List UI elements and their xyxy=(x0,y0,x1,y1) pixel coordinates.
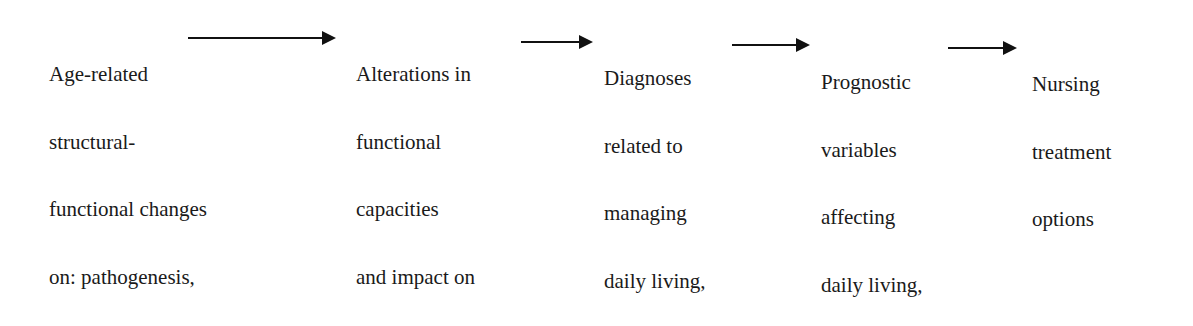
node-line: on: pathogenesis, xyxy=(49,266,232,289)
node-line: Alterations in xyxy=(356,63,475,86)
node-prognostic: Prognostic variables affecting daily liv… xyxy=(821,26,924,326)
node-line: variables xyxy=(821,139,924,162)
arrow-2-to-3 xyxy=(521,41,591,43)
node-diagnoses: Diagnoses related to managing daily livi… xyxy=(604,22,706,326)
arrow-4-to-5 xyxy=(948,47,1015,49)
node-line: Prognostic xyxy=(821,71,924,94)
node-line: affecting xyxy=(821,206,924,229)
node-alterations: Alterations in functional capacities and… xyxy=(356,18,475,326)
node-line: managing xyxy=(604,202,706,225)
node-line: structural- xyxy=(49,131,232,154)
node-age-related-changes: Age-related structural- functional chang… xyxy=(49,18,232,326)
arrow-3-to-4 xyxy=(732,44,808,46)
node-line: functional xyxy=(356,131,475,154)
node-line: treatment xyxy=(1032,141,1111,164)
node-line: functional changes xyxy=(49,198,232,221)
node-line: Age-related xyxy=(49,63,232,86)
node-line: daily living, xyxy=(604,270,706,293)
node-line: and impact on xyxy=(356,266,475,289)
node-line: options xyxy=(1032,208,1111,231)
node-line: Diagnoses xyxy=(604,67,706,90)
node-line: Nursing xyxy=(1032,73,1111,96)
node-line: daily living, xyxy=(821,274,924,297)
node-line: capacities xyxy=(356,198,475,221)
arrow-1-to-2 xyxy=(188,37,334,39)
node-nursing-treatment: Nursing treatment options xyxy=(1032,28,1111,276)
node-line: related to xyxy=(604,135,706,158)
